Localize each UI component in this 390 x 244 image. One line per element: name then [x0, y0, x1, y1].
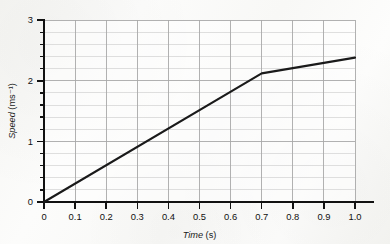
x-tick-label: 0.2: [100, 211, 113, 222]
x-axis-title: Time (s): [183, 230, 217, 240]
x-tick-label: 0.8: [286, 211, 299, 222]
x-axis-title-unit: (s): [206, 230, 217, 240]
x-tick-label: 0.9: [317, 211, 330, 222]
x-tick-label: 1.0: [348, 211, 361, 222]
y-tick-label: 3: [28, 14, 33, 25]
y-axis-title: Speed (ms⁻¹): [7, 83, 17, 139]
x-tick-label: 0.7: [255, 211, 268, 222]
y-tick-label: 2: [28, 75, 33, 86]
chart-figure: 0 1 2 3 0 0.1 0.2 0.3 0.4 0.5 0.6 0.7 0.…: [0, 0, 390, 244]
y-tick-label: 0: [28, 196, 33, 207]
x-tick-label: 0.6: [224, 211, 237, 222]
y-axis-title-quantity: Speed: [7, 111, 17, 138]
y-tick-label: 1: [28, 136, 33, 147]
x-tick-label: 0: [41, 211, 46, 222]
speed-time-line-chart: 0 1 2 3 0 0.1 0.2 0.3 0.4 0.5 0.6 0.7 0.…: [0, 0, 390, 244]
x-tick-label: 0.5: [193, 211, 206, 222]
y-axis-major-ticks: [37, 20, 44, 202]
y-axis-title-unit: (ms⁻¹): [7, 83, 17, 109]
x-axis-title-quantity: Time: [183, 230, 203, 240]
x-tick-label: 0.1: [69, 211, 82, 222]
x-tick-labels: 0 0.1 0.2 0.3 0.4 0.5 0.6 0.7 0.8 0.9 1.…: [41, 211, 361, 222]
x-tick-label: 0.4: [162, 211, 175, 222]
y-tick-labels: 0 1 2 3: [28, 14, 33, 207]
x-tick-label: 0.3: [131, 211, 144, 222]
x-axis-ticks: [44, 202, 355, 209]
